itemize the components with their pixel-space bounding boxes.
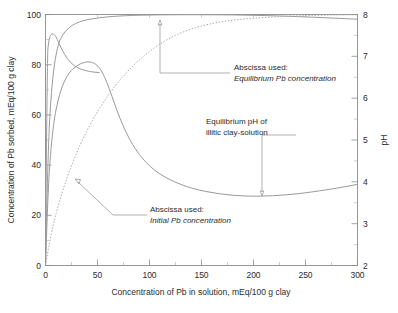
x-tick-label: 50 bbox=[93, 270, 103, 280]
left-tick-labels: 0 20 40 60 80 100 bbox=[27, 10, 41, 271]
annotation-line-1: Equilibrium pH of bbox=[206, 117, 268, 126]
chart-svg: 0 20 40 60 80 100 2 3 4 5 6 7 8 0 50 100… bbox=[0, 0, 398, 313]
x-axis-ticks bbox=[46, 260, 358, 266]
x-axis-title: Concentration of Pb in solution, mEq/100… bbox=[111, 287, 291, 297]
left-tick-label: 40 bbox=[32, 160, 42, 170]
annotation-equilibrium-ph: Equilibrium pH of illitic clay-solution bbox=[206, 117, 268, 137]
right-tick-label: 4 bbox=[363, 177, 368, 187]
y-axis-left-title: Concentration of Pb sorbed, mEq/100 g cl… bbox=[6, 56, 16, 224]
left-tick-label: 0 bbox=[36, 261, 41, 271]
x-tick-label: 250 bbox=[298, 270, 312, 280]
left-tick-label: 20 bbox=[32, 210, 42, 220]
annotation-line-2: illitic clay-solution bbox=[206, 128, 268, 137]
left-tick-label: 60 bbox=[32, 110, 42, 120]
annotation-equilibrium-abscissa: Abscissa used: Equilibrium Pb concentrat… bbox=[234, 63, 336, 83]
leader-equilibrium-ph bbox=[260, 135, 296, 196]
right-tick-label: 2 bbox=[363, 261, 368, 271]
annotation-line-2: Initial Pb concentration bbox=[150, 216, 231, 225]
x-tick-label: 200 bbox=[246, 270, 260, 280]
curve-sorbed-initial bbox=[46, 15, 358, 266]
right-tick-label: 3 bbox=[363, 219, 368, 229]
x-tick-label: 150 bbox=[194, 270, 208, 280]
right-tick-label: 8 bbox=[363, 10, 368, 20]
leader-equilibrium-abscissa bbox=[158, 20, 230, 73]
annotation-line-1: Abscissa used: bbox=[150, 205, 204, 214]
right-tick-labels: 2 3 4 5 6 7 8 bbox=[363, 10, 368, 271]
x-tick-labels: 0 50 100 150 200 250 300 bbox=[43, 270, 365, 280]
right-tick-label: 5 bbox=[363, 135, 368, 145]
x-tick-label: 300 bbox=[350, 270, 364, 280]
y-axis-right-title: pH bbox=[379, 135, 389, 146]
x-tick-label: 0 bbox=[43, 270, 48, 280]
curve-equilibrium-ph bbox=[46, 62, 358, 266]
figure: 0 20 40 60 80 100 2 3 4 5 6 7 8 0 50 100… bbox=[0, 0, 398, 313]
left-tick-label: 80 bbox=[32, 60, 42, 70]
curve-sorbed-equilibrium bbox=[46, 15, 358, 266]
x-tick-label: 100 bbox=[142, 270, 156, 280]
leader-initial-abscissa bbox=[75, 179, 147, 215]
annotation-line-2: Equilibrium Pb concentration bbox=[234, 74, 336, 83]
plot-frame bbox=[46, 15, 358, 266]
curve-upper-ph bbox=[46, 34, 100, 237]
right-axis-ticks bbox=[352, 15, 358, 266]
annotation-initial-abscissa: Abscissa used: Initial Pb concentration bbox=[150, 205, 231, 225]
right-tick-label: 6 bbox=[363, 93, 368, 103]
annotation-line-1: Abscissa used: bbox=[234, 63, 288, 72]
left-tick-label: 100 bbox=[27, 10, 41, 20]
right-tick-label: 7 bbox=[363, 51, 368, 61]
